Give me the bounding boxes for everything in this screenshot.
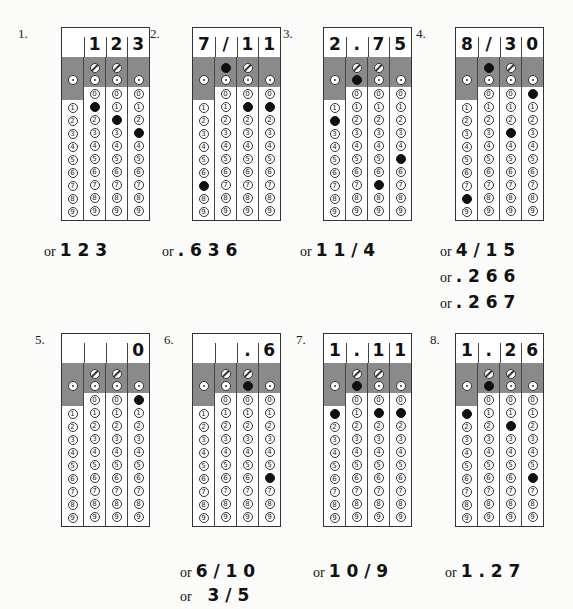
digit-bubble-5[interactable]: 5 <box>68 155 78 165</box>
digit-bubble-8[interactable]: 8 <box>199 500 209 510</box>
digit-bubble-7[interactable]: 7 <box>90 180 100 190</box>
digit-bubble-3[interactable]: 3 <box>90 128 100 138</box>
digit-bubble-0[interactable]: 0 <box>352 89 362 99</box>
digit-bubble-5[interactable] <box>396 154 406 164</box>
digit-bubble-5[interactable]: 5 <box>506 460 516 470</box>
digit-bubble-0[interactable]: 0 <box>90 395 100 405</box>
digit-bubble-8[interactable]: 8 <box>352 193 362 203</box>
digit-bubble-8[interactable]: 8 <box>134 193 144 203</box>
digit-bubble-8[interactable]: 8 <box>484 193 494 203</box>
digit-bubble-5[interactable]: 5 <box>265 460 275 470</box>
digit-bubble-9[interactable]: 9 <box>68 207 78 217</box>
digit-bubble-3[interactable]: 3 <box>396 434 406 444</box>
digit-bubble-5[interactable]: 5 <box>462 155 472 165</box>
digit-bubble-4[interactable]: 4 <box>330 142 340 152</box>
digit-bubble-9[interactable]: 9 <box>265 206 275 216</box>
digit-bubble-2[interactable]: 2 <box>221 421 231 431</box>
digit-bubble-4[interactable]: 4 <box>221 447 231 457</box>
digit-bubble-3[interactable]: 3 <box>199 435 209 445</box>
digit-bubble-8[interactable]: 8 <box>90 193 100 203</box>
digit-bubble-9[interactable]: 9 <box>484 206 494 216</box>
digit-bubble-6[interactable]: 6 <box>199 168 209 178</box>
digit-bubble-6[interactable]: 6 <box>396 473 406 483</box>
digit-bubble-3[interactable]: 3 <box>506 434 516 444</box>
digit-bubble-1[interactable]: 1 <box>352 102 362 112</box>
decimal-bubble[interactable] <box>396 381 406 391</box>
digit-bubble-6[interactable]: 6 <box>484 167 494 177</box>
digit-bubble-7[interactable]: 7 <box>221 180 231 190</box>
digit-bubble-8[interactable]: 8 <box>506 499 516 509</box>
digit-bubble-4[interactable]: 4 <box>484 141 494 151</box>
digit-bubble-0[interactable]: 0 <box>352 395 362 405</box>
digit-bubble-7[interactable]: 7 <box>243 180 253 190</box>
digit-bubble-5[interactable]: 5 <box>462 461 472 471</box>
digit-bubble-8[interactable]: 8 <box>221 193 231 203</box>
digit-bubble-8[interactable]: 8 <box>68 500 78 510</box>
digit-bubble-1[interactable] <box>265 102 275 112</box>
digit-bubble-1[interactable]: 1 <box>134 102 144 112</box>
digit-bubble-6[interactable]: 6 <box>221 167 231 177</box>
digit-bubble-4[interactable]: 4 <box>374 447 384 457</box>
digit-bubble-4[interactable]: 4 <box>506 141 516 151</box>
decimal-bubble[interactable] <box>330 381 340 391</box>
digit-bubble-4[interactable]: 4 <box>112 141 122 151</box>
digit-bubble-9[interactable]: 9 <box>462 207 472 217</box>
digit-bubble-5[interactable]: 5 <box>374 154 384 164</box>
digit-bubble-1[interactable]: 1 <box>506 408 516 418</box>
digit-bubble-6[interactable]: 6 <box>199 474 209 484</box>
digit-bubble-0[interactable]: 0 <box>374 395 384 405</box>
digit-bubble-7[interactable]: 7 <box>199 487 209 497</box>
digit-bubble-7[interactable]: 7 <box>352 180 362 190</box>
digit-bubble-2[interactable]: 2 <box>199 422 209 432</box>
digit-bubble-5[interactable]: 5 <box>528 460 538 470</box>
digit-bubble-3[interactable]: 3 <box>374 434 384 444</box>
digit-bubble-1[interactable]: 1 <box>199 103 209 113</box>
digit-bubble-2[interactable]: 2 <box>484 421 494 431</box>
digit-bubble-0[interactable]: 0 <box>484 395 494 405</box>
slash-bubble[interactable] <box>506 63 516 73</box>
digit-bubble-6[interactable]: 6 <box>134 473 144 483</box>
digit-bubble-7[interactable]: 7 <box>243 486 253 496</box>
digit-bubble-0[interactable]: 0 <box>221 89 231 99</box>
decimal-bubble[interactable] <box>199 381 209 391</box>
digit-bubble-6[interactable]: 6 <box>112 473 122 483</box>
decimal-bubble[interactable] <box>396 75 406 85</box>
digit-bubble-9[interactable]: 9 <box>374 512 384 522</box>
digit-bubble-3[interactable]: 3 <box>462 435 472 445</box>
digit-bubble-8[interactable]: 8 <box>112 193 122 203</box>
decimal-bubble[interactable] <box>112 381 122 391</box>
digit-bubble-1[interactable]: 1 <box>462 103 472 113</box>
digit-bubble-6[interactable]: 6 <box>528 167 538 177</box>
digit-bubble-6[interactable]: 6 <box>374 167 384 177</box>
digit-bubble-9[interactable]: 9 <box>396 512 406 522</box>
digit-bubble-5[interactable]: 5 <box>90 460 100 470</box>
digit-bubble-2[interactable] <box>506 421 516 431</box>
digit-bubble-1[interactable]: 1 <box>199 409 209 419</box>
digit-bubble-1[interactable]: 1 <box>506 102 516 112</box>
digit-bubble-1[interactable]: 1 <box>374 102 384 112</box>
digit-bubble-9[interactable]: 9 <box>112 512 122 522</box>
digit-bubble-8[interactable]: 8 <box>90 499 100 509</box>
digit-bubble-5[interactable]: 5 <box>221 460 231 470</box>
digit-bubble-1[interactable]: 1 <box>484 102 494 112</box>
digit-bubble-7[interactable]: 7 <box>396 486 406 496</box>
digit-bubble-6[interactable]: 6 <box>90 473 100 483</box>
digit-bubble-4[interactable]: 4 <box>528 447 538 457</box>
digit-bubble-9[interactable]: 9 <box>112 206 122 216</box>
digit-bubble-2[interactable]: 2 <box>396 115 406 125</box>
digit-bubble-5[interactable]: 5 <box>90 154 100 164</box>
digit-bubble-7[interactable]: 7 <box>265 486 275 496</box>
digit-bubble-9[interactable]: 9 <box>506 206 516 216</box>
decimal-bubble[interactable] <box>506 381 516 391</box>
digit-bubble-0[interactable]: 0 <box>265 89 275 99</box>
digit-bubble-9[interactable]: 9 <box>374 206 384 216</box>
digit-bubble-4[interactable]: 4 <box>528 141 538 151</box>
digit-bubble-3[interactable]: 3 <box>528 128 538 138</box>
digit-bubble-4[interactable]: 4 <box>484 447 494 457</box>
digit-bubble-7[interactable]: 7 <box>134 486 144 496</box>
slash-bubble[interactable] <box>352 63 362 73</box>
decimal-bubble[interactable] <box>352 381 362 391</box>
digit-bubble-7[interactable]: 7 <box>528 486 538 496</box>
digit-bubble-6[interactable]: 6 <box>330 474 340 484</box>
slash-bubble[interactable] <box>374 63 384 73</box>
